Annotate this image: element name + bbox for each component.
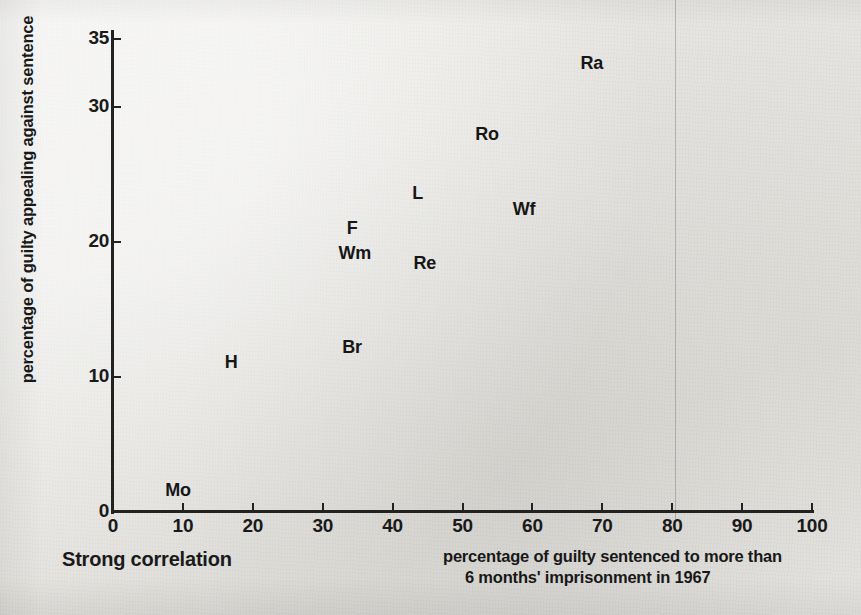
data-point-label: L	[412, 183, 423, 204]
data-point-label: Mo	[165, 480, 191, 501]
x-tick-label: 70	[579, 515, 625, 537]
x-tick-label: 50	[440, 515, 486, 537]
y-tick-mark	[113, 241, 121, 243]
x-tick-label: 40	[370, 515, 416, 537]
plot-data-area: RaRoLWfFWmReBrHMo	[113, 39, 812, 512]
data-point-label: H	[225, 351, 238, 372]
data-point-label: Re	[413, 253, 436, 274]
y-tick-label: 30	[65, 95, 109, 117]
y-tick-label: 20	[65, 230, 109, 252]
x-tick-label: 90	[719, 515, 765, 537]
x-axis-title-line2: 6 months' imprisonment in 1967	[443, 567, 813, 588]
x-tick-label: 0	[90, 515, 136, 537]
x-tick-label: 80	[649, 515, 695, 537]
x-tick-label: 10	[160, 515, 206, 537]
y-tick-mark	[113, 376, 121, 378]
y-tick-label: 10	[65, 365, 109, 387]
figure-scatter-plot: 010203035 0102030405060708090100 RaRoLWf…	[0, 0, 861, 615]
data-point-label: F	[347, 218, 358, 239]
y-tick-mark	[113, 106, 121, 108]
y-axis-title: percentage of guilty appealing against s…	[18, 0, 37, 400]
y-tick-mark	[113, 38, 121, 40]
x-axis-title-line1: percentage of guilty sentenced to more t…	[443, 547, 782, 565]
x-axis-title: percentage of guilty sentenced to more t…	[443, 546, 813, 587]
x-tick-label: 20	[230, 515, 276, 537]
y-tick-label: 35	[65, 27, 109, 49]
data-point-label: Br	[342, 337, 362, 358]
chart-caption: Strong correlation	[62, 548, 232, 571]
x-tick-label: 30	[300, 515, 346, 537]
data-point-label: Wf	[513, 199, 536, 220]
x-tick-label: 60	[509, 515, 555, 537]
x-tick-label: 100	[789, 515, 835, 537]
data-point-label: Ra	[581, 53, 604, 74]
data-point-label: Ro	[475, 123, 499, 144]
data-point-label: Wm	[339, 242, 372, 263]
